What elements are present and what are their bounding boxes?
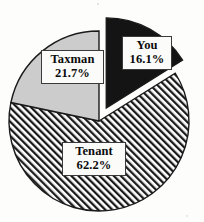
- pie-label-taxman: Taxman 21.7%: [41, 50, 104, 84]
- pie-chart-canvas: [0, 0, 204, 222]
- pie-label-tenant-value: 62.2%: [67, 159, 121, 173]
- pie-label-tenant-name: Tenant: [67, 145, 121, 159]
- pie-label-you: You 16.1%: [122, 36, 172, 70]
- pie-label-taxman-name: Taxman: [46, 53, 99, 67]
- pie-label-you-name: You: [127, 39, 167, 53]
- scan-speckle: [97, 3, 99, 5]
- scan-speckle: [186, 215, 188, 217]
- pie-label-taxman-value: 21.7%: [46, 67, 99, 81]
- pie-chart: You 16.1% Taxman 21.7% Tenant 62.2%: [0, 0, 204, 222]
- pie-label-tenant: Tenant 62.2%: [62, 142, 126, 176]
- pie-label-you-value: 16.1%: [127, 53, 167, 67]
